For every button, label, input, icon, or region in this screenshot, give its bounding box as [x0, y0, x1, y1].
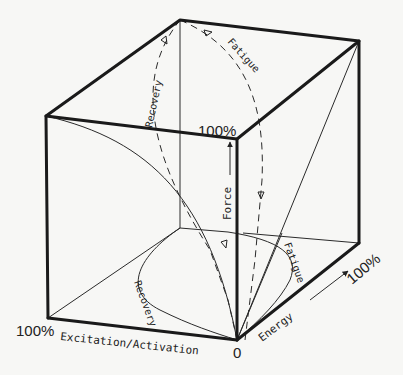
- energy-label: Energy: [256, 310, 296, 345]
- top-loop: [153, 20, 264, 340]
- top-recovery-label: Recovery: [143, 79, 164, 128]
- bottom-fatigue-label: Fatigue: [282, 241, 307, 284]
- arrow-up-icon: [161, 36, 167, 44]
- force-label: Force: [221, 187, 234, 220]
- top-fatigue-label: Fatigue: [226, 36, 262, 75]
- force-max-label: 100%: [198, 122, 236, 139]
- cube-front-edges: [46, 20, 359, 340]
- origin-label: 0: [233, 344, 241, 361]
- back-edges: [48, 20, 359, 318]
- arrow-right-icon: [204, 30, 212, 36]
- energy-max-label: 100%: [343, 250, 383, 288]
- diagonal-lines: [46, 41, 359, 340]
- excitation-max-label: 100%: [16, 322, 54, 339]
- cube-diagram: 100% Force 100% Excitation/Activation 0 …: [0, 0, 403, 375]
- bottom-recovery-label: Recovery: [132, 279, 159, 328]
- arrow-up-icon: [221, 240, 227, 248]
- energy-arrow-icon: [310, 271, 348, 300]
